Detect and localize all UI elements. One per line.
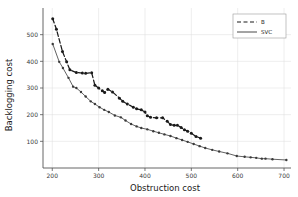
data-point-b — [51, 17, 54, 20]
data-point-svc — [80, 91, 82, 93]
data-point-b — [176, 124, 179, 127]
data-point-b — [190, 132, 193, 135]
line-chart: 200300400500600700100200300400500 BSVC O… — [0, 0, 298, 197]
data-point-b — [143, 111, 146, 114]
data-point-b — [186, 130, 189, 133]
data-point-b — [118, 97, 121, 100]
data-series — [51, 17, 287, 161]
legend-label-b: B — [261, 19, 265, 25]
x-tick-label: 600 — [232, 172, 244, 179]
data-point-svc — [90, 100, 92, 102]
data-point-svc — [175, 137, 177, 139]
data-point-svc — [146, 128, 148, 130]
data-point-b — [155, 116, 158, 119]
series-line-b — [53, 19, 201, 138]
data-point-svc — [236, 155, 238, 157]
data-point-svc — [130, 123, 132, 125]
x-axis-label: Obstruction cost — [130, 183, 201, 193]
data-point-b — [194, 135, 197, 138]
data-point-b — [81, 72, 84, 75]
x-tick-label: 500 — [186, 172, 198, 179]
data-point-svc — [226, 152, 228, 154]
data-point-svc — [243, 156, 245, 158]
data-point-b — [75, 71, 78, 74]
data-point-svc — [181, 139, 183, 141]
data-point-svc — [169, 135, 171, 137]
data-point-svc — [114, 114, 116, 116]
y-tick-label: 500 — [27, 31, 39, 38]
data-point-svc — [285, 159, 287, 161]
chart-figure: 200300400500600700100200300400500 BSVC O… — [0, 0, 298, 197]
x-tick-label: 300 — [93, 172, 105, 179]
data-point-b — [111, 91, 114, 94]
x-tick-label: 700 — [278, 172, 290, 179]
data-point-svc — [158, 132, 160, 134]
data-point-svc — [186, 141, 188, 143]
data-point-svc — [255, 157, 257, 159]
data-point-b — [106, 88, 109, 91]
data-point-svc — [249, 156, 251, 158]
data-point-b — [169, 123, 172, 126]
data-point-svc — [261, 157, 263, 159]
data-point-svc — [218, 150, 220, 152]
data-point-b — [132, 106, 135, 109]
data-point-b — [140, 108, 143, 111]
data-point-b — [93, 84, 96, 87]
y-tick-label: 400 — [27, 58, 39, 65]
chart-legend: BSVC — [233, 14, 286, 38]
data-point-b — [166, 120, 169, 123]
data-point-b — [103, 91, 106, 94]
data-point-svc — [103, 109, 105, 111]
data-point-svc — [98, 106, 100, 108]
data-point-b — [126, 103, 129, 106]
data-point-svc — [124, 119, 126, 121]
data-point-svc — [192, 143, 194, 145]
data-point-svc — [67, 77, 69, 79]
data-point-b — [90, 71, 93, 74]
data-point-b — [61, 50, 64, 53]
data-point-svc — [120, 116, 122, 118]
data-point-b — [55, 28, 58, 31]
legend-label-svc: SVC — [261, 29, 272, 35]
x-tick-label: 400 — [139, 172, 151, 179]
data-point-svc — [140, 127, 142, 129]
data-point-svc — [58, 61, 60, 63]
x-tick-label: 200 — [47, 172, 59, 179]
y-tick-label: 200 — [27, 111, 39, 118]
data-point-svc — [94, 103, 96, 105]
y-tick-label: 300 — [27, 84, 39, 91]
data-point-b — [180, 126, 183, 129]
y-tick-label: 100 — [27, 138, 39, 145]
legend-box — [233, 14, 286, 38]
data-point-svc — [108, 111, 110, 113]
data-point-b — [68, 68, 71, 71]
data-point-b — [161, 116, 164, 119]
data-point-svc — [211, 149, 213, 151]
data-point-svc — [135, 125, 137, 127]
data-point-svc — [62, 67, 64, 69]
data-point-b — [97, 87, 100, 90]
data-point-svc — [152, 130, 154, 132]
data-point-b — [149, 116, 152, 119]
data-point-svc — [72, 85, 74, 87]
data-point-b — [135, 107, 138, 110]
data-point-b — [84, 72, 87, 75]
data-point-b — [173, 124, 176, 127]
data-point-svc — [52, 43, 54, 45]
data-point-b — [65, 60, 68, 63]
data-point-svc — [204, 147, 206, 149]
data-point-svc — [75, 87, 77, 89]
data-point-b — [101, 89, 104, 92]
data-point-b — [199, 137, 202, 140]
data-point-b — [183, 128, 186, 131]
data-point-b — [146, 114, 149, 117]
y-axis-label: Backlogging cost — [4, 58, 14, 131]
data-point-svc — [264, 157, 266, 159]
data-point-b — [121, 100, 124, 103]
data-point-svc — [163, 133, 165, 135]
data-point-svc — [271, 158, 273, 160]
data-point-svc — [198, 145, 200, 147]
data-point-svc — [84, 95, 86, 97]
